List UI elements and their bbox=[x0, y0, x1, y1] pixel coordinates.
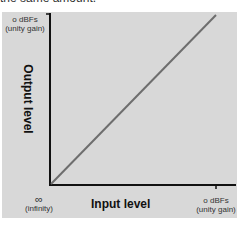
x-axis-left-label: ∞ (infinity) bbox=[18, 195, 60, 213]
x-axis-right-label: o dBFs (unity gain) bbox=[192, 196, 240, 214]
y-axis-title: Output level bbox=[21, 59, 35, 139]
unity-diagonal-line bbox=[51, 15, 216, 184]
y-axis-top-label: o dBFs (unity gain) bbox=[4, 15, 46, 33]
x-axis-title: Input level bbox=[91, 197, 150, 211]
